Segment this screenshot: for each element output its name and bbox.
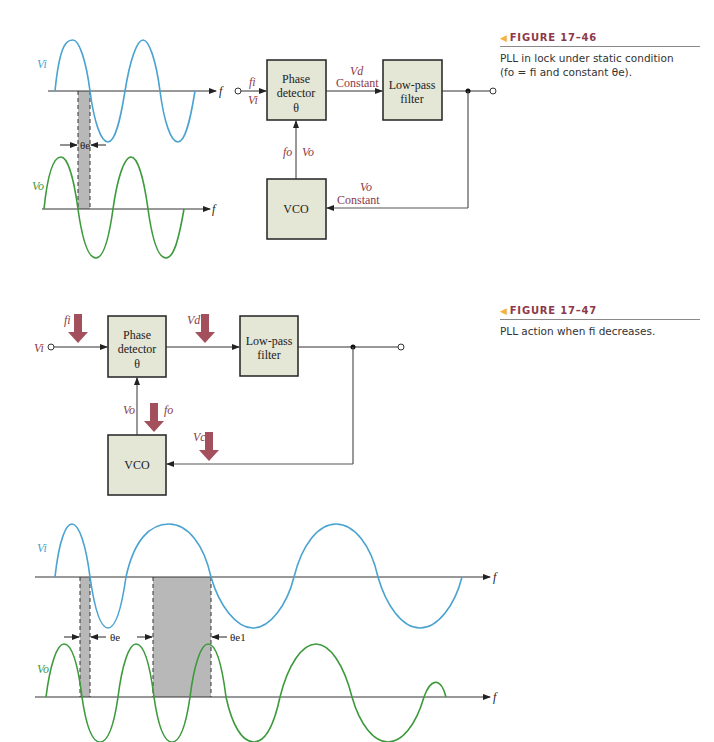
svg-text:detector: detector — [277, 86, 316, 100]
fi-decrease-arrow-icon — [68, 314, 88, 343]
svg-text:f: f — [493, 690, 498, 704]
svg-text:Low-pass: Low-pass — [389, 78, 436, 92]
fig47-block-diagram: Vi fi Phase detector θ Vd Low-pass filte… — [34, 313, 404, 495]
input-terminal — [235, 88, 241, 94]
svg-text:VCO: VCO — [283, 202, 309, 216]
svg-text:Vo: Vo — [32, 179, 44, 193]
svg-text:f: f — [493, 570, 498, 584]
output-terminal — [398, 344, 404, 350]
svg-text:detector: detector — [118, 342, 157, 356]
svg-text:Vi: Vi — [37, 57, 47, 71]
svg-text:Vc: Vc — [193, 430, 206, 444]
fig46-block-diagram: fi Vi Phase detector θ Vd Constant Low-p… — [235, 60, 496, 239]
svg-text:Vi: Vi — [248, 93, 258, 107]
svg-text:Vi: Vi — [37, 541, 47, 555]
fig46-waveforms: θe Vi Vo f f — [32, 40, 224, 258]
svg-text:Constant: Constant — [336, 76, 379, 90]
vo-wave — [46, 644, 446, 742]
svg-text:Phase: Phase — [282, 72, 310, 86]
svg-text:fi: fi — [249, 75, 256, 89]
phase-shade-1 — [80, 577, 90, 697]
svg-text:θe: θe — [110, 631, 120, 643]
pll-figures: θe Vi Vo f f fi Vi Phase detector θ Vd C… — [0, 0, 714, 742]
svg-text:f: f — [219, 84, 224, 98]
svg-text:θe1: θe1 — [230, 631, 246, 643]
svg-text:Vo: Vo — [123, 403, 135, 417]
svg-text:θ: θ — [134, 357, 140, 371]
fig47-waveforms: θe θe1 Vi Vo f f — [35, 524, 498, 742]
svg-text:Vi: Vi — [34, 341, 44, 355]
svg-text:Vo: Vo — [37, 662, 49, 676]
svg-text:Constant: Constant — [337, 193, 380, 207]
vo-wave — [44, 157, 184, 258]
vi-wave — [55, 524, 462, 628]
output-terminal — [490, 88, 496, 94]
svg-text:Vo: Vo — [360, 180, 372, 194]
phase-shade-2 — [153, 577, 211, 697]
svg-text:θ: θ — [293, 101, 299, 115]
svg-text:Low-pass: Low-pass — [246, 334, 293, 348]
svg-text:fo: fo — [164, 403, 173, 417]
svg-text:Vo: Vo — [302, 145, 314, 159]
svg-text:fo: fo — [283, 145, 292, 159]
svg-text:fi: fi — [64, 313, 71, 327]
svg-text:f: f — [212, 202, 217, 216]
input-terminal — [48, 344, 54, 350]
svg-text:Vd: Vd — [187, 313, 201, 327]
svg-text:θe: θe — [80, 139, 90, 151]
svg-text:filter: filter — [257, 348, 280, 362]
svg-text:filter: filter — [400, 92, 423, 106]
svg-text:Phase: Phase — [123, 328, 151, 342]
svg-text:VCO: VCO — [124, 458, 150, 472]
fo-decrease-arrow-icon — [144, 403, 164, 432]
